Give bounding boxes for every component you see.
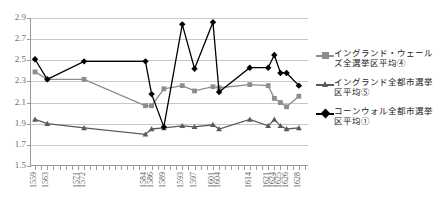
x-tick-mark xyxy=(78,166,79,170)
legend-label: コーンウォル全都市選挙区平均① xyxy=(334,106,435,126)
data-point xyxy=(179,21,185,27)
x-tick-mark xyxy=(262,166,263,170)
data-point xyxy=(247,117,253,122)
x-tick-mark xyxy=(35,166,36,170)
x-tick-label: 1559 xyxy=(30,172,38,188)
x-tick-mark xyxy=(280,166,281,170)
x-tick-label: 1626 xyxy=(282,172,290,188)
x-tick-label: 1589 xyxy=(159,172,167,188)
x-tick-mark xyxy=(47,166,48,170)
series-cornwall-all-borough-constituencies xyxy=(32,19,302,130)
x-tick-mark xyxy=(305,166,306,170)
x-tick-mark xyxy=(158,166,159,170)
legend-label: イングランド・ウェールズ全選挙区平均④ xyxy=(334,48,435,68)
series-england-wales-all-constituencies xyxy=(33,70,302,110)
data-point xyxy=(180,83,185,88)
x-tick-mark xyxy=(231,166,232,170)
x-tick-mark xyxy=(219,166,220,170)
x-tick-mark xyxy=(164,166,165,170)
y-tick-label: 2.3 xyxy=(0,76,26,85)
x-tick-mark xyxy=(201,166,202,170)
x-tick-mark xyxy=(256,166,257,170)
x-tick-mark xyxy=(293,166,294,170)
x-tick-label: 1563 xyxy=(42,172,50,188)
x-tick-mark xyxy=(274,166,275,170)
series-england-all-borough-constituencies xyxy=(32,117,302,137)
x-tick-mark xyxy=(170,166,171,170)
x-tick-label: 1628 xyxy=(294,172,302,188)
x-tick-mark xyxy=(72,166,73,170)
x-tick-mark xyxy=(188,166,189,170)
x-tick-mark xyxy=(213,166,214,170)
x-tick-mark xyxy=(287,166,288,170)
x-tick-mark xyxy=(84,166,85,170)
x-tick-mark xyxy=(53,166,54,170)
x-tick-mark xyxy=(182,166,183,170)
data-point xyxy=(296,94,301,99)
data-point xyxy=(210,19,216,25)
legend-marker-icon xyxy=(316,79,334,91)
data-point xyxy=(271,52,277,58)
data-point xyxy=(149,103,154,108)
y-tick-label: 2.9 xyxy=(0,13,26,22)
x-tick-mark xyxy=(96,166,97,170)
x-tick-label: 1614 xyxy=(245,172,253,188)
x-tick-label: 1572 xyxy=(79,172,87,188)
legend-marker-icon xyxy=(316,108,334,120)
plot-area xyxy=(30,18,308,166)
y-tick-label: 1.9 xyxy=(0,119,26,128)
data-point xyxy=(266,83,271,88)
legend-marker-icon xyxy=(316,50,334,62)
y-tick-mark xyxy=(27,166,31,167)
data-point xyxy=(278,100,283,105)
x-tick-mark xyxy=(115,166,116,170)
x-tick-mark xyxy=(244,166,245,170)
x-tick-mark xyxy=(133,166,134,170)
series-line xyxy=(35,22,299,127)
data-point xyxy=(277,70,283,76)
legend-item-england-wales-all-constituencies[interactable]: イングランド・ウェールズ全選挙区平均④ xyxy=(316,48,435,68)
data-point xyxy=(148,91,154,97)
chart-legend: イングランド・ウェールズ全選挙区平均④イングランド全都市選挙区平均⑤コーンウォル… xyxy=(316,48,435,135)
x-tick-mark xyxy=(41,166,42,170)
x-tick-mark xyxy=(268,166,269,170)
x-tick-mark xyxy=(90,166,91,170)
x-tick-label: 1597 xyxy=(190,172,198,188)
data-point xyxy=(143,103,148,108)
y-tick-label: 1.5 xyxy=(0,161,26,170)
legend-label: イングランド全都市選挙区平均⑤ xyxy=(334,77,435,97)
data-point xyxy=(161,86,166,91)
data-point xyxy=(192,89,197,94)
series-line xyxy=(35,72,299,107)
x-tick-mark xyxy=(103,166,104,170)
x-tick-mark xyxy=(207,166,208,170)
y-tick-label: 2.5 xyxy=(0,55,26,64)
x-tick-mark xyxy=(299,166,300,170)
x-tick-mark xyxy=(121,166,122,170)
data-point xyxy=(32,117,38,122)
x-tick-mark xyxy=(195,166,196,170)
x-tick-mark xyxy=(176,166,177,170)
data-point xyxy=(82,77,87,82)
data-point xyxy=(271,117,277,122)
data-point xyxy=(191,66,197,72)
x-tick-mark xyxy=(139,166,140,170)
x-tick-mark xyxy=(238,166,239,170)
x-tick-mark xyxy=(225,166,226,170)
y-tick-label: 2.7 xyxy=(0,34,26,43)
y-tick-label: 1.7 xyxy=(0,140,26,149)
legend-item-england-all-borough-constituencies[interactable]: イングランド全都市選挙区平均⑤ xyxy=(316,77,435,97)
x-tick-label: 1586 xyxy=(147,172,155,188)
x-tick-label: 1593 xyxy=(177,172,185,188)
legend-item-cornwall-all-borough-constituencies[interactable]: コーンウォル全都市選挙区平均① xyxy=(316,106,435,126)
data-point xyxy=(81,58,87,64)
x-tick-mark xyxy=(66,166,67,170)
data-point xyxy=(142,58,148,64)
data-point xyxy=(247,82,252,87)
x-tick-mark xyxy=(109,166,110,170)
data-point xyxy=(265,64,271,70)
x-tick-mark xyxy=(127,166,128,170)
x-tick-mark xyxy=(250,166,251,170)
x-tick-mark xyxy=(60,166,61,170)
series-layer xyxy=(31,18,309,166)
